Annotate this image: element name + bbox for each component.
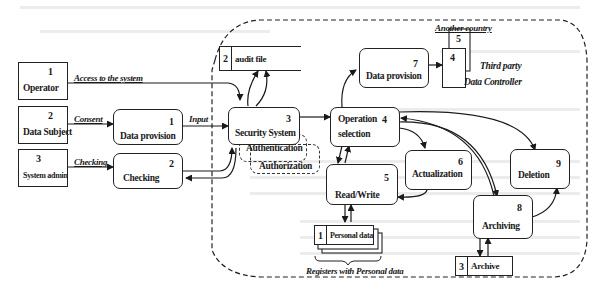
process-data-provision-7[interactable]: 7 Data provision: [359, 48, 429, 88]
process-label-line2: selection: [338, 130, 370, 140]
process-label: Actualization: [412, 170, 462, 180]
process-number: 6: [458, 157, 463, 167]
entity-number: 3: [36, 154, 41, 164]
process-actualization[interactable]: 6 Actualization: [405, 150, 472, 190]
entity-label: Operator: [23, 84, 59, 94]
third-party-number: 4: [450, 53, 455, 63]
process-number: 1: [169, 117, 174, 127]
entity-label: System admin: [23, 172, 68, 180]
process-number: 5: [384, 173, 389, 183]
third-party-label: Third party: [480, 62, 521, 72]
process-label: Checking: [123, 174, 159, 184]
process-number: 7: [413, 59, 418, 69]
process-number: 4: [382, 115, 387, 125]
process-archiving[interactable]: 8 Archiving: [473, 195, 533, 239]
process-data-provision-1[interactable]: 1 Data provision: [113, 109, 183, 145]
another-country-number: 5: [456, 34, 461, 44]
process-number: 3: [286, 114, 291, 124]
process-label: Security System: [235, 129, 296, 139]
entity-number: 2: [48, 111, 53, 121]
data-flow-diagram: 1 Operator 2 Data Subject 3 System admin…: [0, 0, 600, 286]
entity-system-admin[interactable]: 3 System admin: [18, 149, 68, 187]
flow-label-consent: Consent: [74, 115, 102, 124]
process-label: Read/Write: [335, 191, 379, 201]
datastore-number: 3: [456, 257, 468, 275]
datastore-label: audit file: [235, 54, 266, 64]
registers-label: Registers with Personal data: [306, 267, 403, 276]
datastore-number: 2: [220, 47, 232, 70]
entity-operator[interactable]: 1 Operator: [18, 62, 68, 100]
datastore-personal-data[interactable]: 1 Personal data: [314, 225, 374, 245]
process-checking[interactable]: 2 Checking: [113, 153, 183, 189]
process-deletion[interactable]: 9 Deletion: [510, 149, 570, 189]
entity-number: 1: [48, 67, 53, 77]
registers-brace: [315, 256, 381, 265]
flow-label-access: Access to the system: [74, 74, 143, 83]
process-label-line1: Operation: [338, 115, 377, 125]
process-label: Data provision: [120, 132, 176, 142]
third-party-controller-box[interactable]: 4: [442, 48, 466, 88]
process-label: Archiving: [482, 222, 520, 232]
process-label: Data provision: [366, 72, 422, 82]
process-security-system[interactable]: 3 Security System: [228, 107, 300, 145]
process-number: 9: [556, 159, 561, 169]
process-number: 8: [517, 203, 522, 213]
datastore-label: Personal data: [330, 231, 373, 240]
data-controller-label: Data Controller: [464, 78, 522, 88]
process-read-write[interactable]: 5 Read/Write: [326, 164, 398, 205]
datastore-number: 1: [315, 226, 327, 244]
flow-label-input: Input: [189, 115, 208, 124]
flow-label-checking: Checking: [74, 158, 107, 167]
authorization-label: Authorization: [259, 162, 312, 172]
authentication-label: Authentication: [246, 144, 303, 154]
entity-data-subject[interactable]: 2 Data Subject: [18, 106, 68, 144]
datastore-audit-file[interactable]: 2 audit file: [219, 46, 301, 71]
entity-label: Data Subject: [23, 128, 72, 138]
another-country-label: Another country: [435, 24, 492, 33]
process-operation-selection[interactable]: 4 Operation selection: [330, 107, 400, 147]
datastore-label: Archive: [471, 261, 499, 271]
process-number: 2: [169, 159, 174, 169]
datastore-archive[interactable]: 3 Archive: [455, 256, 513, 276]
process-label: Deletion: [518, 171, 549, 181]
